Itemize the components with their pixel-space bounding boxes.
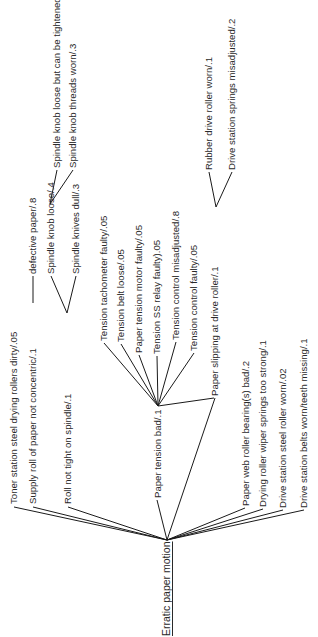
node-tension-ss-relay-faulty: Tension SS relay faulty).05 xyxy=(151,240,162,354)
node-tension-control-faulty: Tension control faulty/.05 xyxy=(188,245,199,351)
node-supply-roll-not-concentric: Supply roll of paper not concentric/.1 xyxy=(27,348,38,504)
node-rubber-drive-roller-worn: Rubber drive roller worn/.1 xyxy=(203,57,214,170)
node-tension-belt-loose: Tension belt loose/.05 xyxy=(115,249,126,342)
node-paper-slipping-drive-roller: Paper slipping at drive roller/.1 xyxy=(209,266,220,396)
node-spindle-knob-tightenable: Spindle knob loose but can be tightened/… xyxy=(51,0,62,168)
node-spindle-knob-threads-worn: Spindle knob threads worn/.3 xyxy=(67,44,78,168)
root-node-erratic-paper-motion: Erratic paper motion xyxy=(161,541,172,636)
node-defective-paper: defective paper/.8 xyxy=(27,198,38,274)
node-drive-station-springs-misadjusted: Drive station springs misadjusted/.2 xyxy=(226,19,237,170)
node-paper-tension-bad: Paper tension bad/.1 xyxy=(152,409,163,498)
node-drying-roller-wiper-springs: Drying roller wiper springs too strong/.… xyxy=(257,340,268,507)
node-drive-station-steel-roller-worn: Drive station steel roller worn/.02 xyxy=(277,368,288,508)
node-tension-tachometer-faulty: Tension tachometer faulty/.05 xyxy=(98,216,109,341)
node-spindle-knives-dull: Spindle knives dull/.3 xyxy=(70,184,81,274)
node-drive-station-belts-worn: Drive station belts worn/teeth missing/.… xyxy=(298,338,309,508)
node-tension-control-misadjusted: Tension control misadjusted/.8 xyxy=(170,211,181,340)
node-toner-rollers-dirty: Toner station steel drying rollers dirty… xyxy=(8,332,19,504)
node-paper-web-roller-bearing-bad: Paper web roller bearing(s) bad/.2 xyxy=(240,361,251,506)
node-roll-not-tight: Roll not tight on spindle/.1 xyxy=(62,394,73,504)
node-paper-tension-motor-faulty: Paper tension motor faulty/.05 xyxy=(133,225,144,353)
node-spindle-knob-loose: Spindle knob loose/.4 xyxy=(45,182,56,274)
